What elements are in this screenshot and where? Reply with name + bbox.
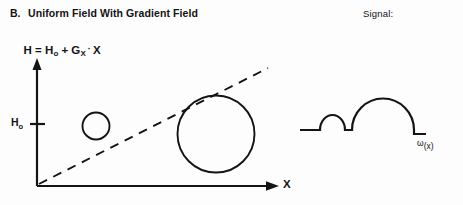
figure-panel-b: B. Uniform Field With Gradient Field H=H… (0, 0, 463, 205)
large-sample-circle (178, 96, 255, 173)
x-axis-arrowhead (266, 181, 279, 191)
signal-trace (300, 99, 426, 134)
left-plot-axes (30, 58, 279, 191)
gradient-field-dashed-line (39, 68, 268, 184)
diagram-vector-layer (0, 0, 463, 205)
small-sample-circle (83, 113, 110, 140)
signal-waveform (300, 99, 426, 134)
y-axis-arrowhead (33, 58, 42, 70)
